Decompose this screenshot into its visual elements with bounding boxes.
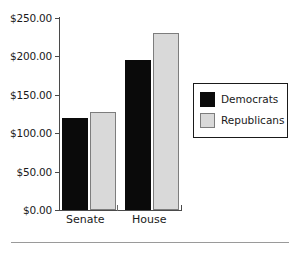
plot-area (60, 18, 182, 210)
y-axis-tick-label-250: $250.00 (10, 13, 52, 24)
legend-item-democrats: Democrats (200, 89, 283, 110)
y-axis-tick-label-0: $0.00 (23, 205, 52, 216)
bar-house-democrats (125, 60, 151, 210)
legend-swatch-republicans-icon (200, 113, 215, 128)
legend-label-democrats: Democrats (221, 94, 278, 105)
y-axis-tick-label-100: $100.00 (10, 128, 52, 139)
bar-senate-republicans (90, 112, 116, 210)
bar-chart-figure: $250.00 $200.00 $150.00 $100.00 $50.00 $… (0, 0, 299, 253)
y-axis-tick-label-150: $150.00 (10, 90, 52, 101)
legend-item-republicans: Republicans (200, 110, 283, 131)
y-axis-tick-label-200: $200.00 (10, 51, 52, 62)
x-axis-label-house: House (132, 214, 166, 225)
bar-house-republicans (153, 33, 179, 210)
x-axis-line (59, 210, 182, 211)
x-axis-label-senate: Senate (66, 214, 105, 225)
bar-senate-democrats (62, 118, 88, 210)
chart-legend: Democrats Republicans (193, 83, 288, 138)
bottom-divider (11, 242, 289, 243)
legend-swatch-democrats-icon (200, 92, 215, 107)
legend-label-republicans: Republicans (221, 115, 284, 126)
y-axis-tick-label-50: $50.00 (16, 167, 52, 178)
